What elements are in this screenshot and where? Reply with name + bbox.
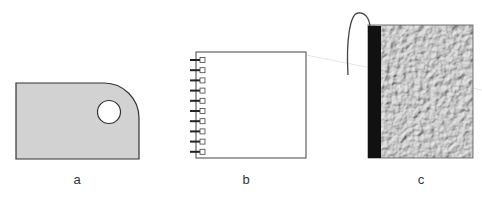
- label-b: b: [236, 172, 256, 187]
- book-spine: [368, 26, 381, 158]
- diagram-canvas: [0, 0, 482, 198]
- figure-c-book: [347, 13, 473, 158]
- label-c: c: [411, 172, 431, 187]
- hole-icon: [98, 101, 121, 124]
- figure-a-tag: [16, 83, 139, 159]
- label-a: a: [67, 172, 87, 187]
- figure-b-notepad: [190, 52, 306, 158]
